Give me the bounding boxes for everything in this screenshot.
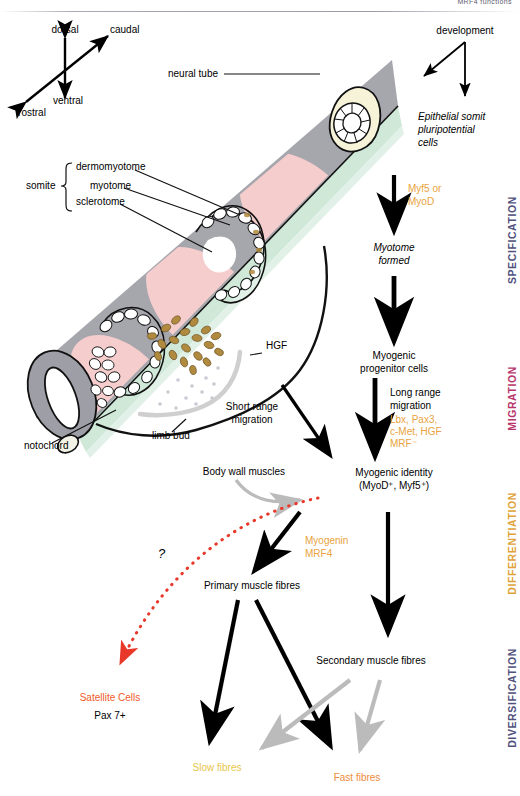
label-body-wall-muscles: Body wall muscles — [203, 466, 285, 478]
arrow-body-wall-curve — [236, 480, 300, 502]
arrow-secondary-to-fast — [360, 680, 380, 750]
stage-label-differentiation: DIFFERENTIATION — [506, 492, 518, 595]
label-question-mark: ? — [158, 548, 165, 560]
label-dorsal: dorsal — [51, 24, 78, 36]
label-short-range-migration: Short range migration — [226, 400, 278, 426]
label-pax7: Pax 7+ — [94, 710, 125, 722]
label-sclerotome: sclerotome — [76, 196, 125, 208]
label-migration-genes: Lbx, Pax3, c-Met, HGF MRF⁻ — [390, 414, 442, 450]
label-satellite-cells: Satellite Cells — [80, 692, 141, 704]
arrow-satellite-dotted — [122, 498, 318, 660]
label-neural-tube: neural tube — [168, 68, 218, 80]
stage-label-migration: MIGRATION — [506, 366, 518, 431]
label-myotome: myotome — [90, 180, 131, 192]
label-secondary-muscle-fibres: Secondary muscle fibres — [316, 655, 426, 667]
stage-label-diversification: DIVERSIFICATION — [506, 648, 518, 748]
arrow-primary-to-slow — [210, 600, 238, 740]
label-myogenin-mrf4: Myogenin MRF4 — [305, 534, 348, 560]
label-caudal: caudal — [110, 24, 139, 36]
label-hgf: HGF — [266, 340, 287, 352]
label-slow-fibres: Slow fibres — [193, 762, 242, 774]
orientation-compass — [26, 36, 108, 102]
arrow-to-primary-fibres — [255, 512, 300, 570]
epithelial-somite-shape — [330, 87, 381, 151]
somite-bracket — [61, 163, 72, 211]
development-arrows — [424, 42, 465, 96]
arrow-secondary-to-slow — [262, 680, 350, 748]
sclerotome-blob — [203, 237, 236, 272]
label-notochord: notochord — [24, 440, 68, 452]
label-rostral: rostral — [18, 107, 46, 119]
label-myogenic-identity: Myogenic identity (MyoD⁺, Myf5⁺) — [355, 466, 432, 492]
label-dermomyotome: dermomyotome — [76, 161, 145, 173]
arrow-short-range-migration — [282, 385, 330, 455]
label-limb-bud: limb bud — [152, 430, 190, 442]
label-epithelial-somite: Epithelial somit pluripotential cells — [418, 110, 485, 149]
label-myogenic-progenitor: Myogenic progenitor cells — [360, 349, 428, 375]
stage-label-specification: SPECIFICATION — [506, 196, 518, 284]
label-development: development — [436, 25, 493, 37]
label-fast-fibres: Fast fibres — [334, 772, 381, 784]
label-somite: somite — [26, 180, 55, 192]
label-myotome-formed: Myotome formed — [373, 241, 414, 267]
label-ventral: ventral — [53, 95, 83, 107]
label-myf5-myod: Myf5 or MyoD — [408, 182, 441, 208]
diagram-page: MRF4 functions — [0, 0, 520, 796]
label-primary-muscle-fibres: Primary muscle fibres — [204, 580, 300, 592]
label-long-range-migration: Long range migration — [390, 386, 441, 412]
